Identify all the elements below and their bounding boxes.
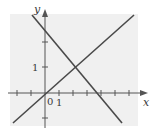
y-axis-arrow-icon: [42, 9, 48, 17]
coordinate-graph: y x 0 1 1: [0, 0, 153, 131]
x-axis-label: x: [143, 96, 150, 109]
x-tick-label-1: 1: [56, 97, 62, 108]
origin-label: 0: [47, 96, 53, 107]
y-axis-label: y: [33, 3, 41, 16]
y-tick-label-1: 1: [32, 62, 38, 73]
